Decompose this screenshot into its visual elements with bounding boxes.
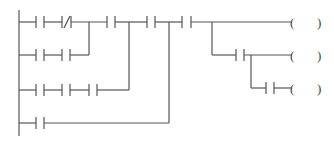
- coil-2: ( ): [290, 48, 321, 63]
- svg-text:): ): [317, 15, 321, 30]
- no-contact: [266, 82, 274, 94]
- no-contact: [62, 49, 70, 61]
- rung-row-2: [19, 22, 89, 61]
- no-contact: [147, 16, 155, 28]
- no-contact: [36, 117, 44, 129]
- no-contact: [36, 49, 44, 61]
- no-contact: [236, 49, 244, 61]
- svg-text:): ): [317, 48, 321, 63]
- output-branch-3: [251, 55, 292, 94]
- no-contact: [62, 84, 70, 96]
- rung-row-1: [19, 16, 292, 28]
- coil-1: ( ): [290, 15, 321, 30]
- rung-row-4: [19, 22, 169, 129]
- output-branch-2: [212, 22, 292, 61]
- svg-text:): ): [317, 81, 321, 96]
- svg-text:(: (: [290, 48, 294, 63]
- nc-contact: [62, 16, 71, 28]
- no-contact: [36, 16, 44, 28]
- no-contact: [89, 84, 97, 96]
- no-contact: [182, 16, 191, 28]
- no-contact: [36, 84, 44, 96]
- svg-text:(: (: [290, 81, 294, 96]
- ladder-diagram: ( ) ( ) ( ): [0, 0, 334, 144]
- svg-text:(: (: [290, 15, 294, 30]
- no-contact: [107, 16, 115, 28]
- coil-3: ( ): [290, 81, 321, 96]
